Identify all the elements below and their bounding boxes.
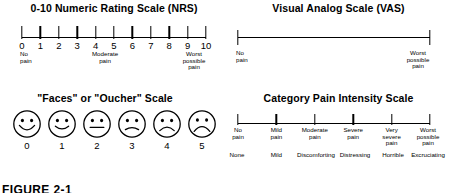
nrs-tick-3 bbox=[76, 26, 77, 39]
nrs-anchor-moderate-pain: Moderate pain bbox=[92, 51, 118, 64]
nrs-tick-1 bbox=[40, 26, 41, 39]
category-word-2: Discomforting bbox=[297, 152, 335, 159]
figure-caption: FIGURE 2-1 bbox=[2, 183, 72, 193]
category-label-0: No pain bbox=[216, 127, 260, 140]
face-value-1: 1 bbox=[59, 140, 64, 151]
face-value-5: 5 bbox=[199, 140, 204, 151]
nrs-number-3: 3 bbox=[75, 40, 80, 51]
faces-row: 0 1 2 bbox=[12, 109, 217, 151]
category-word-4: Horrible bbox=[382, 152, 404, 159]
category-baseline bbox=[238, 123, 430, 124]
category-panel: Category Pain Intensity Scale No pain Mi… bbox=[228, 92, 449, 104]
nrs-tick-0 bbox=[21, 26, 22, 39]
nrs-number-6: 6 bbox=[130, 40, 135, 51]
category-tick-4 bbox=[391, 114, 392, 125]
nrs-number-10: 10 bbox=[201, 40, 212, 51]
nrs-anchor-no-pain: No pain bbox=[20, 51, 32, 64]
face-value-0: 0 bbox=[24, 140, 29, 151]
category-tick-2 bbox=[314, 114, 315, 125]
face-smile-icon bbox=[47, 109, 77, 139]
faces-panel: "Faces" or "Oucher" Scale 0 1 bbox=[0, 92, 228, 104]
category-label-2: Moderate pain bbox=[293, 127, 337, 140]
face-neutral-icon bbox=[82, 109, 112, 139]
vas-tick-left bbox=[237, 30, 238, 45]
nrs-number-8: 8 bbox=[167, 40, 172, 51]
nrs-tick-9 bbox=[187, 26, 188, 39]
category-word-3: Distressing bbox=[340, 152, 371, 159]
category-tick-3 bbox=[352, 114, 353, 125]
vas-title: Visual Analog Scale (VAS) bbox=[228, 2, 449, 14]
face-item-4[interactable]: 4 bbox=[152, 109, 182, 151]
category-word-0: None bbox=[230, 152, 245, 159]
category-title: Category Pain Intensity Scale bbox=[228, 92, 449, 104]
vas-tick-right bbox=[429, 30, 430, 45]
face-item-1[interactable]: 1 bbox=[47, 109, 77, 151]
category-label-3: Severe pain bbox=[331, 127, 375, 140]
category-label-1: Mild pain bbox=[254, 127, 298, 140]
face-value-2: 2 bbox=[94, 140, 99, 151]
nrs-number-2: 2 bbox=[56, 40, 61, 51]
face-big-smile-icon bbox=[12, 109, 42, 139]
category-word-1: Mild bbox=[271, 152, 282, 159]
vas-anchor-worst-pain: Worst possible pain bbox=[406, 50, 430, 70]
nrs-tick-10 bbox=[205, 26, 206, 39]
face-frown-icon bbox=[152, 109, 182, 139]
face-value-4: 4 bbox=[164, 140, 169, 151]
category-tick-0 bbox=[237, 114, 238, 125]
category-label-5: Worst possible pain bbox=[406, 127, 449, 147]
nrs-tick-5 bbox=[113, 26, 114, 39]
category-word-5: Excruciating bbox=[411, 152, 445, 159]
face-slight-frown-icon bbox=[117, 109, 147, 139]
face-item-2[interactable]: 2 bbox=[82, 109, 112, 151]
nrs-tick-6 bbox=[132, 26, 133, 39]
face-value-3: 3 bbox=[129, 140, 134, 151]
category-tick-5 bbox=[429, 114, 430, 125]
nrs-number-1: 1 bbox=[38, 40, 43, 51]
nrs-tick-4 bbox=[95, 26, 96, 39]
nrs-title: 0-10 Numeric Rating Scale (NRS) bbox=[0, 2, 228, 14]
vas-anchor-no-pain: No pain bbox=[236, 50, 248, 63]
vas-panel: Visual Analog Scale (VAS) No pain Worst … bbox=[228, 2, 449, 14]
nrs-panel: 0-10 Numeric Rating Scale (NRS) 0 1 2 3 … bbox=[0, 2, 228, 14]
face-item-5[interactable]: 5 bbox=[187, 109, 217, 151]
nrs-tick-2 bbox=[58, 26, 59, 39]
nrs-number-7: 7 bbox=[148, 40, 153, 51]
nrs-anchor-worst-pain: Worst possible pain bbox=[183, 51, 206, 71]
face-deep-frown-icon bbox=[187, 109, 217, 139]
category-tick-1 bbox=[276, 114, 277, 125]
vas-baseline bbox=[238, 37, 430, 38]
nrs-tick-8 bbox=[168, 26, 169, 39]
face-item-0[interactable]: 0 bbox=[12, 109, 42, 151]
face-item-3[interactable]: 3 bbox=[117, 109, 147, 151]
nrs-tick-7 bbox=[150, 26, 151, 39]
faces-title: "Faces" or "Oucher" Scale bbox=[0, 92, 210, 104]
